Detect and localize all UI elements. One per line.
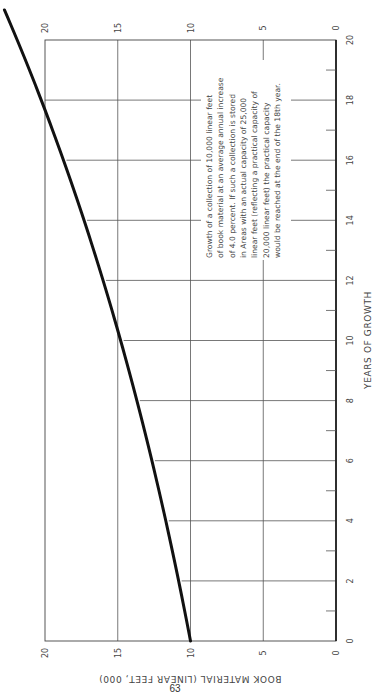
y-tick-label-top: 15 [114,23,123,33]
annotation-line: 20,000 linear feet) the practical capaci… [262,102,271,258]
y-axis-title: BOOK MATERIAL (LINEAR FEET, 000) [99,674,282,684]
y-tick-label-bottom: 5 [259,650,268,655]
annotation-line: linear feet (reflecting a practical capa… [250,91,259,258]
grid-layer [45,40,336,641]
x-tick-label: 0 [346,638,355,643]
x-tick-label: 18 [346,95,355,105]
x-tick-label: 6 [346,458,355,463]
x-axis-title: YEARS OF GROWTH [363,291,373,390]
x-tick-label: 12 [346,275,355,285]
x-tick-label: 20 [346,35,355,45]
x-tick-label: 14 [346,215,355,225]
x-tick-label: 2 [346,578,355,583]
annotation-line: in Areas with an actual capacity of 25,0… [239,98,248,258]
y-tick-label-top: 20 [41,23,50,33]
x-tick-label: 4 [346,518,355,523]
y-tick-label-top: 10 [187,23,196,33]
x-tick-label: 8 [346,398,355,403]
annotation-line: of 4.0 percent. If such a collection is … [228,94,237,258]
growth-chart: 024681012141618200055101015152020 Growth… [0,0,386,695]
y-tick-label-bottom: 0 [332,650,341,655]
annotation-line: Growth of a collection of 10,000 linear … [205,95,214,258]
growth-curve [4,10,190,641]
y-tick-label-bottom: 10 [187,648,196,658]
y-tick-label-top: 5 [259,25,268,30]
annotation-line: would be reached at the end of the 18th … [273,83,282,258]
x-tick-label: 16 [346,155,355,165]
annotation-line: of book material at an average annual in… [216,77,225,258]
x-tick-label: 10 [346,335,355,345]
annotation-block: Growth of a collection of 10,000 linear … [201,60,291,260]
page-number: 63 [169,683,181,694]
y-tick-label-bottom: 15 [114,648,123,658]
y-tick-label-bottom: 20 [41,648,50,658]
y-tick-label-top: 0 [332,25,341,30]
